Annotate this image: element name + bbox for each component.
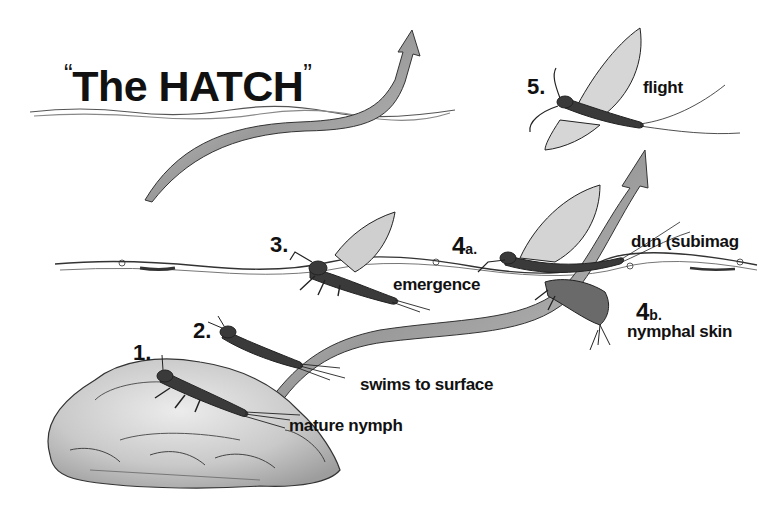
stage-5-label: flight [643, 78, 683, 98]
stage-suffix: a. [465, 241, 477, 257]
stage-3-label: emergence [393, 275, 480, 295]
stage-suffix: b. [649, 307, 661, 323]
stage-1-number: 1. [133, 340, 151, 366]
emerging-mayfly-icon [290, 212, 430, 312]
stage-number: 4 [636, 298, 649, 325]
adult-mayfly-flight-icon [530, 28, 740, 150]
stage-4a-label: dun (subimag [631, 232, 739, 252]
stage-number: 2. [193, 318, 211, 343]
stage-2-label: swims to surface [360, 375, 493, 395]
stage-5-number: 5. [527, 74, 545, 100]
stage-3-number: 3. [270, 232, 288, 258]
hatch-diagram: “The HATCH” 1. mature nymph 2. swims to … [0, 0, 761, 527]
stage-number: 5. [527, 74, 545, 99]
water-surface-line [55, 253, 757, 276]
stage-4b-label: nymphal skin [627, 322, 732, 342]
upward-curve-arrow [145, 30, 420, 202]
stage-number: 3. [270, 232, 288, 257]
title-text: The HATCH [72, 62, 303, 110]
diagram-title: “The HATCH” [64, 62, 312, 111]
title-close-quote: ” [303, 58, 311, 88]
stage-4a-number: 4a. [452, 232, 477, 260]
title-open-quote: “ [64, 58, 72, 88]
stage-1-label: mature nymph [289, 416, 403, 436]
dun-mayfly-icon [478, 185, 690, 272]
stage-2-number: 2. [193, 318, 211, 344]
stage-number: 4 [452, 232, 465, 259]
stage-number: 1. [133, 340, 151, 365]
